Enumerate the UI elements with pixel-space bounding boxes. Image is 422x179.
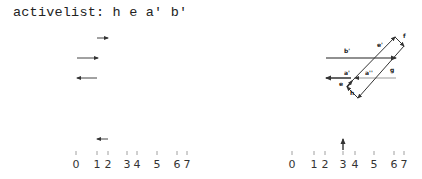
left-panel: 01234567 [73,38,191,171]
axis-tick-label: 6 [391,158,398,171]
label-a-double-prime: a'' [365,69,373,76]
label-e: e [339,80,343,87]
axis-tick-label: 6 [174,158,181,171]
axis-tick-label: 1 [94,158,101,171]
axis-tick-label: 2 [322,158,329,171]
edge-e [347,81,352,87]
axis-tick-label: 0 [289,158,296,171]
axis-tick-label: 7 [184,158,191,171]
label-h: h [350,89,354,96]
axis-tick-label: 5 [371,158,378,171]
right-axis: 01234567 [289,151,408,171]
axis-tick-label: 2 [105,158,112,171]
axis-tick-label: 7 [401,158,408,171]
label-g: g [390,66,394,74]
label-b-prime: b' [344,47,350,54]
label-f: f [403,32,406,39]
axis-tick-label: 3 [124,158,131,171]
axis-tick-label: 4 [134,158,141,171]
left-axis: 01234567 [73,151,191,171]
label-a-prime: a' [344,69,350,76]
axis-tick-label: 1 [311,158,318,171]
axis-tick-label: 0 [73,158,80,171]
edge-e-prime [351,37,395,82]
axis-tick-label: 4 [352,158,359,171]
axis-tick-label: 5 [154,158,161,171]
right-panel: b' e' f g a' a'' e h 01234567 [289,32,408,171]
axis-tick-label: 3 [340,158,347,171]
label-e-prime: e' [377,41,383,48]
diagram-canvas: 01234567 b' e' f g a' a'' e h 01234567 [0,0,422,179]
